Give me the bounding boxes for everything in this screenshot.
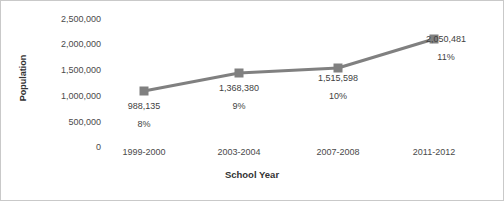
x-tick-label: 2003-2004 (194, 147, 284, 157)
x-tick-label: 2007-2008 (293, 147, 383, 157)
data-label-value: 2,050,481 (386, 34, 504, 45)
data-label-percent: 8% (84, 119, 204, 130)
x-tick-label: 1999-2000 (99, 147, 189, 157)
data-label-value: 1,515,598 (278, 73, 398, 84)
x-axis-title: School Year (1, 169, 503, 180)
data-label-percent: 10% (278, 91, 398, 102)
chart-container: Population 2,500,000 2,000,000 1,500,000… (0, 0, 504, 201)
data-point-marker (334, 64, 343, 73)
data-label-percent: 11% (386, 52, 504, 63)
data-label-percent: 9% (179, 101, 299, 112)
x-tick-label: 2011-2012 (389, 147, 479, 157)
data-point-marker (235, 69, 244, 78)
data-point-marker (140, 87, 149, 96)
